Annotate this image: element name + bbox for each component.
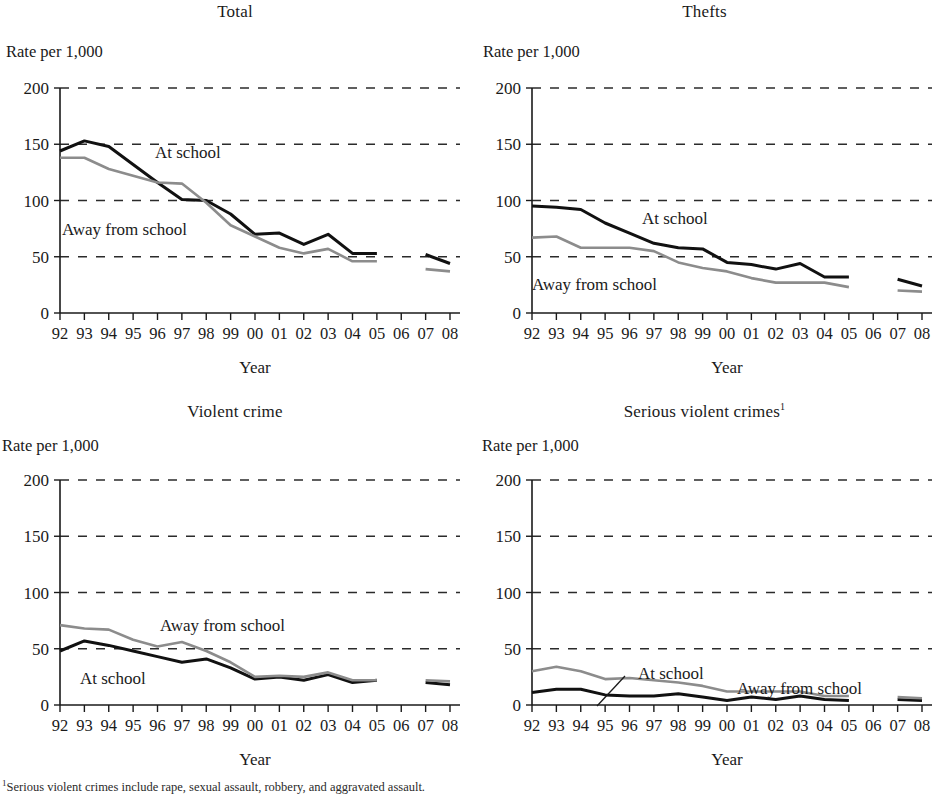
x-tick-label-02: 02 [768,324,785,343]
series-annotation-away-from-school: Away from school [737,679,862,698]
y-tick-label-150: 150 [24,527,50,546]
series-annotation-at-school: At school [638,664,704,683]
y-tick-label-100: 100 [496,192,522,211]
x-tick-label-00: 00 [719,324,736,343]
x-tick-label-98: 98 [198,716,215,735]
x-tick-label-08: 08 [442,716,459,735]
x-tick-label-01: 01 [271,716,288,735]
x-tick-label-97: 97 [646,716,663,735]
y-axis-unit-label-thefts: Rate per 1,000 [483,42,580,62]
x-tick-label-03: 03 [792,716,809,735]
y-tick-label-50: 50 [504,248,521,267]
callout-leader-line [597,676,625,706]
x-tick-label-05: 05 [369,324,386,343]
figure-footnote: 1Serious violent crimes include rape, se… [2,780,425,794]
x-tick-label-92: 92 [524,324,541,343]
y-tick-label-100: 100 [496,584,522,603]
series-annotation-at-school: At school [80,669,146,688]
x-tick-label-97: 97 [646,324,663,343]
x-tick-label-97: 97 [174,324,191,343]
x-tick-label-03: 03 [792,324,809,343]
x-tick-label-06: 06 [393,716,410,735]
x-tick-label-95: 95 [597,324,614,343]
x-tick-label-06: 06 [865,324,882,343]
x-tick-label-00: 00 [247,716,264,735]
y-axis-unit-label-serious-violent-crimes: Rate per 1,000 [482,436,579,456]
x-tick-label-96: 96 [621,324,638,343]
x-axis-title: Year [711,358,743,377]
series-line-away-from-school [60,158,377,261]
series-line-away-from-school [426,269,450,271]
x-tick-label-92: 92 [52,716,69,735]
footnote-text: Serious violent crimes include rape, sex… [7,780,426,794]
y-tick-label-150: 150 [496,135,522,154]
x-tick-label-92: 92 [52,324,69,343]
y-tick-label-50: 50 [32,640,49,659]
x-tick-label-00: 00 [719,716,736,735]
series-line-at-school [898,279,922,286]
x-tick-label-07: 07 [889,716,906,735]
x-tick-label-04: 04 [344,324,361,343]
x-tick-label-95: 95 [125,716,142,735]
series-annotation-at-school: At school [155,143,221,162]
x-tick-label-99: 99 [222,324,239,343]
x-tick-label-95: 95 [125,324,142,343]
series-line-away-from-school [898,697,922,698]
x-tick-label-01: 01 [743,324,760,343]
panel-violent-crime: Violent crime Rate per 1,000 05010015020… [0,400,470,792]
x-tick-label-02: 02 [768,716,785,735]
y-tick-label-100: 100 [24,584,50,603]
y-axis-unit-label-violent-crime: Rate per 1,000 [2,436,99,456]
x-tick-label-08: 08 [442,324,459,343]
x-tick-label-94: 94 [573,324,590,343]
x-tick-label-96: 96 [149,716,166,735]
x-tick-label-04: 04 [816,716,833,735]
x-tick-label-98: 98 [670,716,687,735]
panel-title-text: Serious violent crimes [624,402,780,421]
x-tick-label-93: 93 [548,716,565,735]
x-tick-label-02: 02 [296,716,313,735]
panel-thefts: Thefts Rate per 1,000 050100150200929394… [470,0,939,400]
x-tick-label-08: 08 [914,324,931,343]
y-tick-label-200: 200 [24,79,50,98]
y-tick-label-200: 200 [496,79,522,98]
x-tick-label-93: 93 [76,716,93,735]
panel-title-text: Thefts [682,2,727,21]
x-axis-title: Year [239,750,271,769]
series-annotation-away-from-school: Away from school [160,616,285,635]
y-tick-label-50: 50 [504,640,521,659]
panel-total: Total Rate per 1,000 0501001502009293949… [0,0,470,400]
y-tick-label-50: 50 [32,248,49,267]
series-line-away-from-school [426,680,450,681]
panel-title-thefts: Thefts [470,2,939,22]
series-line-at-school [426,255,450,264]
series-line-at-school [426,683,450,685]
y-tick-label-150: 150 [496,527,522,546]
y-tick-label-200: 200 [496,471,522,490]
chart-svg-violent-crime: 0501001502009293949596979899000102030405… [0,400,470,792]
y-tick-label-0: 0 [513,696,522,715]
series-line-at-school [898,699,922,700]
x-tick-label-98: 98 [670,324,687,343]
chart-svg-serious-violent-crimes: 0501001502009293949596979899000102030405… [470,400,939,792]
x-axis-title: Year [711,750,743,769]
panel-title-text: Violent crime [187,402,283,421]
panel-title-serious-violent-crimes: Serious violent crimes1 [470,402,939,422]
y-tick-label-200: 200 [24,471,50,490]
x-tick-label-99: 99 [694,324,711,343]
x-tick-label-04: 04 [344,716,361,735]
x-tick-label-95: 95 [597,716,614,735]
x-tick-label-01: 01 [743,716,760,735]
x-tick-label-97: 97 [174,716,191,735]
x-axis-title: Year [239,358,271,377]
panel-title-text: Total [217,2,253,21]
x-tick-label-99: 99 [694,716,711,735]
x-tick-label-92: 92 [524,716,541,735]
series-annotation-away-from-school: Away from school [62,220,187,239]
x-tick-label-05: 05 [841,324,858,343]
x-tick-label-05: 05 [841,716,858,735]
series-annotation-away-from-school: Away from school [532,275,657,294]
x-tick-label-05: 05 [369,716,386,735]
x-tick-label-07: 07 [417,716,434,735]
